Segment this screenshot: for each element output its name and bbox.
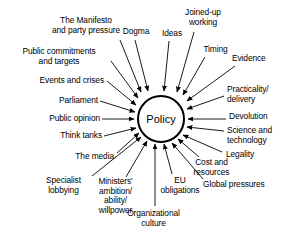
arrow-science-and-technology <box>187 127 224 131</box>
arrow-parliament <box>100 101 135 112</box>
factor-label-timing: Timing <box>199 45 232 55</box>
arrow-think-tanks <box>104 128 136 136</box>
factor-label-eu-obligations: EU obligations <box>152 176 208 195</box>
factor-label-events-and-crises: Events and crises <box>16 76 104 86</box>
arrow-dogma <box>135 40 148 91</box>
arrow-ideas <box>164 41 169 91</box>
factor-label-joined-up-working: Joined-up working <box>177 8 229 27</box>
arrow-practicality-delivery <box>187 96 224 109</box>
factor-label-public-opinion: Public opinion <box>25 114 100 124</box>
factor-label-public-commitments-and-targets: Public commitments and targets <box>10 47 108 66</box>
arrow-legality <box>183 135 222 152</box>
factor-label-practicality-delivery: Practicality/ delivery <box>227 85 285 104</box>
factor-label-specialist-lobbying: Specialist lobbying <box>37 176 90 195</box>
arrow-events-and-crises <box>107 81 136 105</box>
factor-label-think-tanks: Think tanks <box>40 131 102 141</box>
factor-label-devolution: Devolution <box>229 112 286 122</box>
factor-label-cost-and-resources: Cost and resources <box>185 158 238 177</box>
arrow-public-commitments-and-targets <box>111 61 138 98</box>
factor-label-ideas: Ideas <box>158 29 186 39</box>
policy-influence-diagram: The Manifesto and party pressureDogmaIde… <box>0 0 290 241</box>
arrow-the-manifesto-and-party-pressure <box>120 40 141 92</box>
factor-label-dogma: Dogma <box>119 27 153 37</box>
factor-label-the-media: The media <box>58 152 114 162</box>
center-node-label: Policy <box>146 113 175 125</box>
arrow-joined-up-working <box>177 32 194 92</box>
factor-label-science-and-technology: Science and technology <box>227 126 285 145</box>
arrow-timing <box>183 57 205 95</box>
factor-label-parliament: Parliament <box>36 96 98 106</box>
arrow-eu-obligations <box>164 144 172 174</box>
factor-label-global-pressures: Global pressures <box>203 180 287 190</box>
factor-label-ministers-ambition-ability-willpower: Ministers' ambition/ ability/ willpower <box>88 177 143 215</box>
center-node-policy: Policy <box>137 95 185 143</box>
arrow-the-media <box>117 133 139 153</box>
factor-label-evidence: Evidence <box>232 54 282 64</box>
